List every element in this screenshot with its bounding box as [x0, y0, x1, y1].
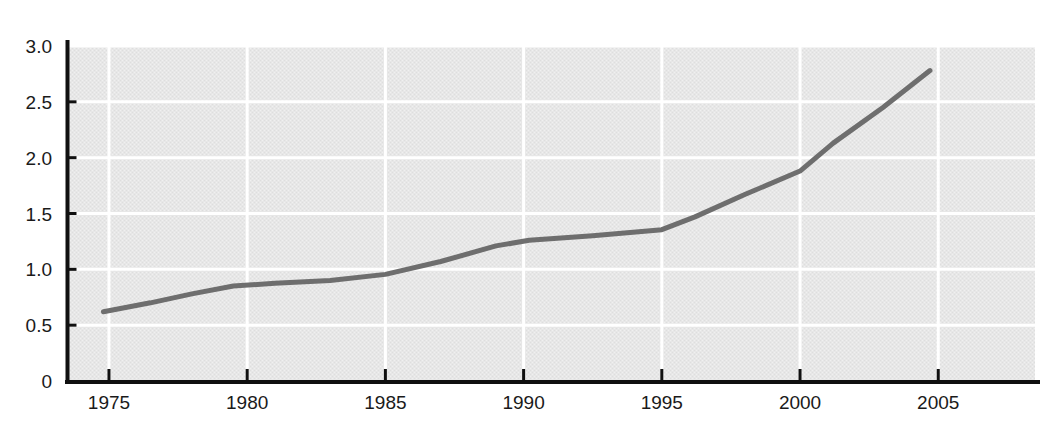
x-tick-label: 1995: [641, 392, 683, 413]
y-tick-label: 2.0: [26, 148, 52, 169]
y-tick-label: 2.5: [26, 92, 52, 113]
y-tick-label: 3.0: [26, 36, 52, 57]
line-chart: 00.51.01.52.02.53.0 19751980198519901995…: [0, 0, 1045, 439]
x-axis-tick-labels: 1975198019851990199520002005: [88, 392, 960, 413]
y-axis-tick-labels: 00.51.01.52.02.53.0: [26, 36, 52, 392]
chart-canvas: 00.51.01.52.02.53.0 19751980198519901995…: [0, 0, 1045, 439]
y-tick-label: 1.0: [26, 259, 52, 280]
x-tick-label: 2000: [779, 392, 821, 413]
x-tick-label: 1980: [226, 392, 268, 413]
x-tick-label: 1990: [502, 392, 544, 413]
y-tick-label: 0.5: [26, 315, 52, 336]
y-tick-label: 1.5: [26, 204, 52, 225]
y-tick-label: 0: [41, 371, 52, 392]
x-tick-label: 1985: [364, 392, 406, 413]
x-tick-label: 2005: [917, 392, 959, 413]
x-tick-label: 1975: [88, 392, 130, 413]
